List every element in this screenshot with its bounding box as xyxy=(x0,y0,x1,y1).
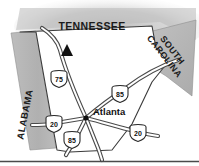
highway-shield-i85-northeast: 85 xyxy=(112,86,128,103)
highway-shield-i85-southwest: 85 xyxy=(64,132,80,149)
highway-number-i20-west: 20 xyxy=(50,121,58,128)
highway-shield-i20-west: 20 xyxy=(46,116,62,133)
locator-map: TENNESSEE SOUTH CAROLINA ALABAMA Atlanta… xyxy=(0,0,199,166)
highway-number-i20-east: 20 xyxy=(134,130,142,137)
highway-number-i85-northeast: 85 xyxy=(116,91,124,98)
highway-shield-i20-east: 20 xyxy=(130,125,146,142)
highway-number-i85-southwest: 85 xyxy=(68,137,76,144)
city-label-atlanta: Atlanta xyxy=(93,106,126,117)
state-label-tennessee: TENNESSEE xyxy=(58,20,125,32)
highway-number-i75-north: 75 xyxy=(55,76,63,83)
highway-shield-i75-north: 75 xyxy=(51,71,67,88)
map-canvas: TENNESSEE SOUTH CAROLINA ALABAMA Atlanta… xyxy=(0,0,199,166)
city-dot-icon xyxy=(83,115,88,120)
